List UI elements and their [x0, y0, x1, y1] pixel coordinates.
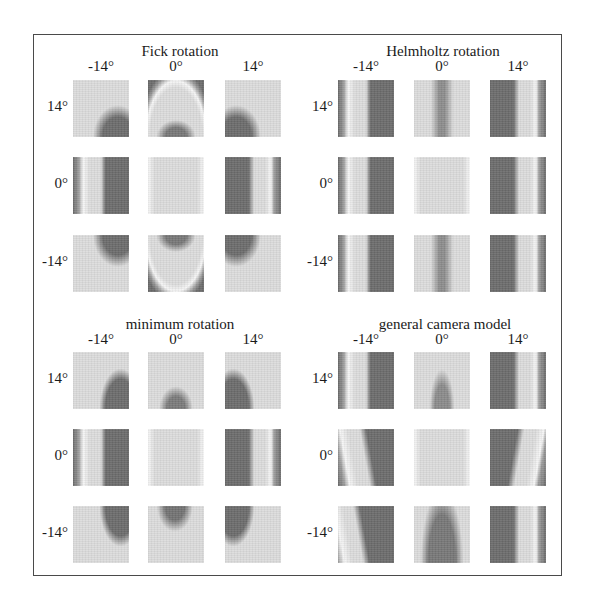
- col-label-helmholtz-1: 0°: [414, 58, 470, 75]
- panel-texture: [490, 352, 546, 409]
- panel-helmholtz-r1-c1: [414, 157, 470, 214]
- panel-texture: [414, 235, 470, 292]
- col-label-general-0: -14°: [338, 331, 394, 348]
- panel-texture: [148, 80, 204, 137]
- col-label-minimum-1: 0°: [148, 331, 204, 348]
- col-label-minimum-0: -14°: [73, 331, 129, 348]
- panel-texture: [338, 506, 394, 563]
- panel-texture: [414, 352, 470, 409]
- panel-minimum-r2-c2: [225, 506, 281, 563]
- panel-general-r2-c2: [490, 506, 546, 563]
- panel-general-r0-c0: [338, 352, 394, 409]
- panel-minimum-r0-c0: [73, 352, 129, 409]
- col-label-minimum-2: 14°: [225, 331, 281, 348]
- block-title-fick: Fick rotation: [120, 43, 240, 60]
- panel-minimum-r2-c0: [73, 506, 129, 563]
- panel-texture: [414, 80, 470, 137]
- panel-texture: [338, 235, 394, 292]
- panel-general-r2-c1: [414, 506, 470, 563]
- panel-fick-r2-c2: [225, 235, 281, 292]
- panel-texture: [338, 157, 394, 214]
- panel-texture: [338, 352, 394, 409]
- col-label-general-2: 14°: [490, 331, 546, 348]
- panel-texture: [490, 429, 546, 486]
- panel-texture: [73, 352, 129, 409]
- panel-texture: [148, 429, 204, 486]
- panel-texture: [73, 80, 129, 137]
- row-label-minimum-1: 0°: [28, 447, 68, 464]
- row-label-minimum-0: 14°: [28, 370, 68, 387]
- panel-texture: [490, 157, 546, 214]
- panel-texture: [414, 506, 470, 563]
- panel-general-r0-c2: [490, 352, 546, 409]
- panel-texture: [338, 429, 394, 486]
- panel-minimum-r0-c2: [225, 352, 281, 409]
- panel-texture: [225, 80, 281, 137]
- row-label-helmholtz-1: 0°: [293, 175, 333, 192]
- row-label-minimum-2: -14°: [28, 524, 68, 541]
- panel-texture: [225, 429, 281, 486]
- panel-texture: [73, 235, 129, 292]
- panel-helmholtz-r1-c0: [338, 157, 394, 214]
- panel-minimum-r1-c2: [225, 429, 281, 486]
- block-title-helmholtz: Helmholtz rotation: [368, 43, 518, 60]
- panel-texture: [414, 157, 470, 214]
- panel-helmholtz-r2-c0: [338, 235, 394, 292]
- panel-texture: [148, 235, 204, 292]
- block-title-minimum: minimum rotation: [110, 316, 250, 333]
- row-label-general-2: -14°: [293, 524, 333, 541]
- panel-fick-r1-c0: [73, 157, 129, 214]
- block-title-general: general camera model: [365, 316, 525, 333]
- col-label-helmholtz-0: -14°: [338, 58, 394, 75]
- panel-texture: [225, 235, 281, 292]
- panel-fick-r0-c1: [148, 80, 204, 137]
- panel-minimum-r1-c1: [148, 429, 204, 486]
- panel-texture: [490, 506, 546, 563]
- panel-minimum-r2-c1: [148, 506, 204, 563]
- panel-texture: [225, 157, 281, 214]
- panel-texture: [225, 506, 281, 563]
- panel-general-r1-c2: [490, 429, 546, 486]
- panel-helmholtz-r2-c2: [490, 235, 546, 292]
- panel-fick-r2-c0: [73, 235, 129, 292]
- panel-minimum-r0-c1: [148, 352, 204, 409]
- panel-texture: [414, 429, 470, 486]
- panel-texture: [148, 157, 204, 214]
- col-label-fick-0: -14°: [73, 58, 129, 75]
- panel-fick-r2-c1: [148, 235, 204, 292]
- row-label-fick-2: -14°: [28, 253, 68, 270]
- panel-helmholtz-r0-c2: [490, 80, 546, 137]
- panel-fick-r0-c2: [225, 80, 281, 137]
- row-label-general-1: 0°: [293, 447, 333, 464]
- panel-texture: [225, 352, 281, 409]
- panel-general-r0-c1: [414, 352, 470, 409]
- panel-general-r2-c0: [338, 506, 394, 563]
- panel-helmholtz-r1-c2: [490, 157, 546, 214]
- panel-texture: [148, 352, 204, 409]
- row-label-general-0: 14°: [293, 370, 333, 387]
- col-label-general-1: 0°: [414, 331, 470, 348]
- panel-texture: [73, 157, 129, 214]
- row-label-fick-0: 14°: [28, 98, 68, 115]
- panel-texture: [490, 80, 546, 137]
- panel-texture: [73, 506, 129, 563]
- row-label-helmholtz-2: -14°: [293, 253, 333, 270]
- panel-fick-r1-c1: [148, 157, 204, 214]
- panel-texture: [490, 235, 546, 292]
- panel-texture: [338, 80, 394, 137]
- col-label-helmholtz-2: 14°: [490, 58, 546, 75]
- col-label-fick-1: 0°: [148, 58, 204, 75]
- row-label-helmholtz-0: 14°: [293, 98, 333, 115]
- panel-texture: [148, 506, 204, 563]
- panel-helmholtz-r0-c1: [414, 80, 470, 137]
- panel-texture: [73, 429, 129, 486]
- panel-helmholtz-r0-c0: [338, 80, 394, 137]
- col-label-fick-2: 14°: [225, 58, 281, 75]
- panel-general-r1-c0: [338, 429, 394, 486]
- panel-fick-r0-c0: [73, 80, 129, 137]
- panel-fick-r1-c2: [225, 157, 281, 214]
- panel-minimum-r1-c0: [73, 429, 129, 486]
- panel-general-r1-c1: [414, 429, 470, 486]
- panel-helmholtz-r2-c1: [414, 235, 470, 292]
- row-label-fick-1: 0°: [28, 175, 68, 192]
